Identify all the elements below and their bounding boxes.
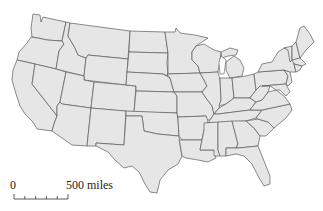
- state-colorado: [91, 82, 136, 112]
- state-florida: [226, 146, 270, 186]
- state-arizona: [52, 102, 91, 146]
- state-maine: [296, 26, 314, 58]
- state-washington: [31, 14, 66, 41]
- state-north-dakota: [129, 31, 168, 53]
- lake-michigan: [219, 56, 226, 74]
- state-new-mexico: [87, 108, 126, 146]
- scale-min-label: 0: [10, 178, 16, 193]
- scale-ruler-icon: [8, 192, 78, 202]
- state-montana: [68, 23, 130, 59]
- state-iowa: [167, 73, 207, 92]
- state-wyoming: [84, 55, 128, 85]
- scale-max-label: 500 miles: [66, 178, 113, 193]
- scale-bar: 0 500 miles: [8, 178, 88, 206]
- state-kansas: [134, 91, 177, 113]
